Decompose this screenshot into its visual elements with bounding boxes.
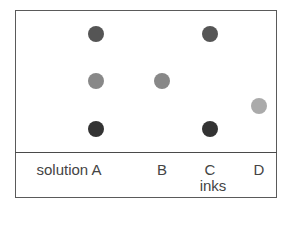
label-c: C <box>205 162 216 178</box>
label-d: D <box>254 162 265 178</box>
label-inks: inks <box>200 178 227 194</box>
spot-a-bottom <box>88 121 104 137</box>
spot-a-middle <box>88 73 104 89</box>
spot-b-middle <box>154 73 170 89</box>
label-solution-a: solution A <box>36 162 101 178</box>
label-b: B <box>157 162 167 178</box>
baseline-divider <box>15 152 277 153</box>
spot-c-top <box>202 26 218 42</box>
spot-c-bottom <box>202 121 218 137</box>
spot-a-top <box>88 26 104 42</box>
spot-d <box>251 98 267 114</box>
